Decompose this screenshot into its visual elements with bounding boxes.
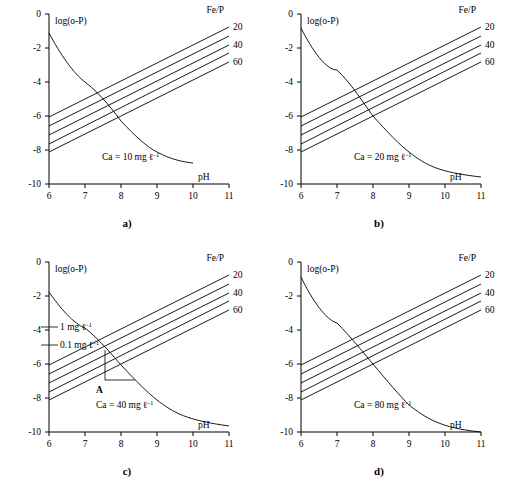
y-axis-title: log(o-P): [307, 264, 339, 275]
figure-container: 0 -2 -4 -6 -8 -10 6 7 8 9 10 11 log(o-P)…: [0, 0, 505, 495]
x-tick-label: 6: [47, 439, 52, 449]
y-tick-label: 0: [288, 9, 293, 19]
x-tick-label: 11: [476, 191, 485, 201]
y-tick-label: -8: [285, 145, 293, 155]
y-tick-label: -8: [33, 145, 41, 155]
x-tick-label: 7: [83, 191, 88, 201]
series-label-20: 20: [485, 22, 495, 32]
panel-b: 0 -2 -4 -6 -8 -10 6 7 8 9 10 11 log(o-P)…: [254, 2, 504, 242]
series-label-60: 60: [233, 305, 243, 315]
y-tick-label: -6: [33, 359, 41, 369]
x-tick-label: 7: [335, 191, 340, 201]
condition-label: Ca = 10 mg ℓ-1: [102, 151, 160, 162]
series-line-fep-int1: [49, 36, 229, 126]
panel-d-plot: 0 -2 -4 -6 -8 -10 6 7 8 9 10 11 log(o-P)…: [254, 250, 504, 465]
y-tick-label: -8: [33, 393, 41, 403]
y-tick-label: 0: [288, 257, 293, 267]
y-axis-title: log(o-P): [55, 16, 87, 27]
x-tick-label: 6: [299, 191, 304, 201]
series-line-fep-20: [49, 27, 229, 117]
annotation-01mg: 0.1 mg ℓ-1: [60, 339, 100, 350]
y-tick-label: -10: [280, 427, 293, 437]
series-line-fep-60: [301, 62, 481, 152]
y-tick-label: -4: [285, 77, 293, 87]
x-tick-label: 10: [440, 439, 450, 449]
panel-a: 0 -2 -4 -6 -8 -10 6 7 8 9 10 11 log(o-P)…: [2, 2, 252, 242]
x-tick-label: 11: [224, 439, 233, 449]
series-label-40: 40: [233, 288, 243, 298]
series-line-fep-40: [301, 293, 481, 383]
x-tick-label: 11: [476, 439, 485, 449]
panel-d: 0 -2 -4 -6 -8 -10 6 7 8 9 10 11 log(o-P)…: [254, 250, 504, 490]
series-line-fep-20: [301, 27, 481, 117]
y-axis-title: log(o-P): [307, 16, 339, 27]
fe-p-header: Fe/P: [207, 253, 224, 263]
y-axis-title: log(o-P): [55, 264, 87, 275]
panel-b-plot: 0 -2 -4 -6 -8 -10 6 7 8 9 10 11 log(o-P)…: [254, 2, 504, 217]
condition-label: Ca = 20 mg ℓ-1: [354, 151, 412, 162]
series-line-fep-40: [49, 293, 229, 383]
y-tick-label: -6: [285, 359, 293, 369]
series-label-60: 60: [485, 305, 495, 315]
panel-label-b: b): [254, 217, 504, 229]
series-label-20: 20: [485, 270, 495, 280]
condition-label: Ca = 40 mg ℓ-1: [96, 399, 154, 410]
y-tick-label: -2: [33, 43, 41, 53]
x-tick-label: 8: [371, 191, 376, 201]
fe-p-header: Fe/P: [459, 5, 476, 15]
x-tick-label: 10: [188, 439, 198, 449]
x-tick-label: 8: [119, 191, 124, 201]
series-label-60: 60: [233, 57, 243, 67]
fe-p-header: Fe/P: [459, 253, 476, 263]
y-tick-label: -4: [33, 325, 41, 335]
series-line-fep-int2: [49, 53, 229, 144]
series-line-fep-int1: [301, 284, 481, 374]
x-tick-label: 6: [47, 191, 52, 201]
panel-label-a: a): [2, 217, 252, 229]
panel-label-d: d): [254, 465, 504, 477]
series-line-fep-int2: [301, 301, 481, 392]
condition-label: Ca = 80 mg ℓ-1: [354, 399, 412, 410]
y-tick-label: -2: [33, 291, 41, 301]
series-label-40: 40: [233, 40, 243, 50]
y-tick-label: 0: [36, 257, 41, 267]
panel-label-c: c): [2, 465, 252, 477]
panel-a-plot: 0 -2 -4 -6 -8 -10 6 7 8 9 10 11 log(o-P)…: [2, 2, 252, 217]
series-label-20: 20: [233, 22, 243, 32]
series-line-fep-40: [49, 45, 229, 135]
y-tick-label: -2: [285, 43, 293, 53]
x-tick-label: 9: [407, 439, 412, 449]
panel-c-plot: 0 -2 -4 -6 -8 -10 6 7 8 9 10 11 log(o-P)…: [2, 250, 252, 465]
y-tick-label: -4: [33, 77, 41, 87]
y-tick-label: -4: [285, 325, 293, 335]
x-tick-label: 9: [407, 191, 412, 201]
y-tick-label: 0: [36, 9, 41, 19]
series-label-40: 40: [485, 40, 495, 50]
ca-curve: [49, 33, 193, 163]
annotation-point-a: A: [96, 385, 103, 395]
x-tick-label: 9: [155, 191, 160, 201]
x-tick-label: 8: [371, 439, 376, 449]
x-tick-label: 7: [335, 439, 340, 449]
y-tick-label: -10: [28, 179, 41, 189]
series-line-fep-60: [301, 310, 481, 400]
series-label-40: 40: [485, 288, 495, 298]
y-tick-label: -10: [28, 427, 41, 437]
y-tick-label: -6: [33, 111, 41, 121]
x-tick-label: 10: [188, 191, 198, 201]
x-tick-label: 8: [119, 439, 124, 449]
x-tick-label: 9: [155, 439, 160, 449]
y-tick-label: -2: [285, 291, 293, 301]
y-tick-label: -6: [285, 111, 293, 121]
series-label-20: 20: [233, 270, 243, 280]
x-tick-label: 6: [299, 439, 304, 449]
x-axis-title: pH: [198, 172, 210, 182]
series-line-fep-20: [49, 275, 229, 365]
series-line-fep-int1: [301, 36, 481, 126]
x-tick-label: 7: [83, 439, 88, 449]
x-tick-label: 10: [440, 191, 450, 201]
series-label-60: 60: [485, 57, 495, 67]
x-tick-label: 11: [224, 191, 233, 201]
series-line-fep-20: [301, 275, 481, 365]
panel-c: 0 -2 -4 -6 -8 -10 6 7 8 9 10 11 log(o-P)…: [2, 250, 252, 490]
